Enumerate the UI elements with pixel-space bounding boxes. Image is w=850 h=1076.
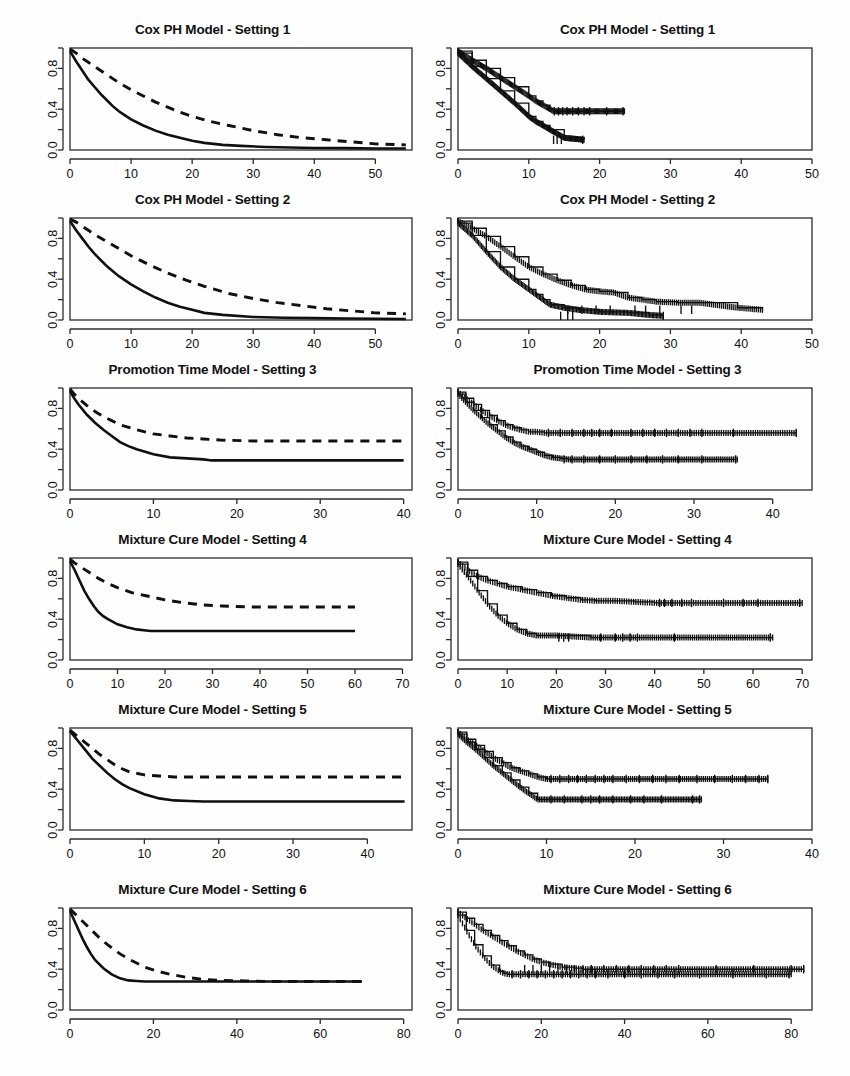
x-tick-label: 10: [111, 677, 125, 691]
x-tick-label: 0: [67, 507, 74, 521]
censor-marks: [458, 218, 762, 313]
censor-marks: [458, 731, 701, 802]
y-tick-label: 0.0: [46, 1001, 60, 1018]
x-tick-label: 20: [549, 677, 563, 691]
censor-marks: [458, 909, 804, 972]
plot-panel: Mixture Cure Model - Setting 40.00.40.80…: [425, 530, 850, 700]
x-tick-label: 60: [746, 677, 760, 691]
survival-curve-dashed: [70, 219, 406, 314]
plot-panel: Cox PH Model - Setting 20.00.40.80102030…: [0, 190, 425, 360]
y-tick-label: 0.4: [46, 100, 60, 117]
survival-curve-dashed: [70, 909, 362, 981]
survival-curve-dashed: [70, 730, 405, 777]
x-tick-label: 40: [360, 847, 374, 861]
survival-curve-solid: [70, 391, 404, 460]
x-tick-label: 0: [455, 677, 462, 691]
x-tick-label: 30: [313, 507, 327, 521]
km-curve: [458, 389, 796, 433]
survival-curve-solid: [70, 221, 406, 319]
km-curve: [458, 218, 762, 310]
x-tick-label: 20: [158, 677, 172, 691]
y-tick-label: 0.8: [46, 740, 60, 757]
survival-curve-dashed: [70, 559, 355, 607]
survival-curve-dashed: [70, 49, 406, 145]
x-tick-label: 40: [307, 337, 321, 351]
x-tick-label: 40: [618, 1027, 632, 1041]
x-tick-label: 20: [230, 507, 244, 521]
survival-curve-solid: [70, 561, 355, 631]
x-tick-label: 20: [185, 337, 199, 351]
x-tick-label: 0: [455, 847, 462, 861]
plot-panel: Cox PH Model - Setting 20.00.40.80102030…: [425, 190, 850, 360]
y-tick-label: 0.4: [46, 960, 60, 977]
x-tick-label: 40: [307, 167, 321, 181]
x-tick-label: 60: [701, 1027, 715, 1041]
y-tick-label: 0.0: [46, 481, 60, 498]
survival-curve-solid: [70, 731, 405, 801]
y-tick-label: 0.0: [434, 141, 448, 158]
x-tick-label: 0: [67, 677, 74, 691]
survival-curves-figure: Cox PH Model - Setting 10.00.40.80102030…: [0, 0, 850, 1076]
x-tick-label: 20: [593, 337, 607, 351]
y-tick-label: 0.8: [46, 920, 60, 937]
x-tick-label: 50: [697, 677, 711, 691]
x-tick-label: 30: [663, 167, 677, 181]
x-tick-label: 10: [530, 507, 544, 521]
y-tick-label: 0.8: [46, 400, 60, 417]
x-tick-label: 40: [766, 507, 780, 521]
y-tick-label: 0.4: [46, 780, 60, 797]
y-tick-label: 0.8: [46, 570, 60, 587]
x-tick-label: 10: [522, 167, 536, 181]
x-tick-label: 50: [368, 167, 382, 181]
plot-panel: Mixture Cure Model - Setting 50.00.40.80…: [0, 700, 425, 870]
x-tick-label: 70: [795, 677, 809, 691]
survival-curve-solid: [70, 51, 406, 148]
x-tick-label: 80: [397, 1027, 411, 1041]
x-tick-label: 80: [784, 1027, 798, 1041]
x-tick-label: 40: [734, 337, 748, 351]
x-tick-label: 60: [348, 677, 362, 691]
censor-marks: [458, 389, 796, 436]
y-tick-label: 0.4: [46, 270, 60, 287]
y-tick-label: 0.0: [434, 311, 448, 328]
km-curve: [458, 729, 768, 779]
x-tick-label: 40: [805, 847, 819, 861]
survival-curve-solid: [70, 911, 362, 981]
x-tick-label: 40: [397, 507, 411, 521]
x-tick-label: 10: [137, 847, 151, 861]
y-tick-label: 0.0: [434, 651, 448, 668]
y-tick-label: 0.4: [434, 100, 448, 117]
y-tick-label: 0.8: [434, 570, 448, 587]
y-tick-label: 0.8: [434, 740, 448, 757]
x-tick-label: 40: [648, 677, 662, 691]
y-tick-label: 0.8: [434, 230, 448, 247]
plot-panel: Promotion Time Model - Setting 30.00.40.…: [0, 360, 425, 530]
x-tick-label: 30: [663, 337, 677, 351]
x-tick-label: 20: [212, 847, 226, 861]
x-tick-label: 0: [67, 847, 74, 861]
y-tick-label: 0.0: [46, 141, 60, 158]
x-tick-label: 40: [734, 167, 748, 181]
y-tick-label: 0.0: [46, 651, 60, 668]
plot-panel: Promotion Time Model - Setting 30.00.40.…: [425, 360, 850, 530]
x-tick-label: 50: [805, 167, 819, 181]
y-tick-label: 0.0: [46, 821, 60, 838]
x-tick-label: 0: [67, 337, 74, 351]
censor-marks: [458, 48, 624, 114]
x-tick-label: 60: [313, 1027, 327, 1041]
x-tick-label: 20: [146, 1027, 160, 1041]
plot-panel: Cox PH Model - Setting 10.00.40.80102030…: [425, 20, 850, 190]
x-tick-label: 30: [246, 167, 260, 181]
x-tick-label: 50: [368, 337, 382, 351]
x-tick-label: 20: [534, 1027, 548, 1041]
x-tick-label: 10: [124, 167, 138, 181]
x-tick-label: 0: [455, 507, 462, 521]
censor-marks: [458, 391, 737, 462]
x-tick-label: 10: [146, 507, 160, 521]
km-curve: [458, 391, 737, 459]
x-tick-label: 20: [185, 167, 199, 181]
x-tick-label: 70: [396, 677, 410, 691]
x-tick-label: 20: [593, 167, 607, 181]
x-tick-label: 30: [599, 677, 613, 691]
y-tick-label: 0.8: [434, 920, 448, 937]
